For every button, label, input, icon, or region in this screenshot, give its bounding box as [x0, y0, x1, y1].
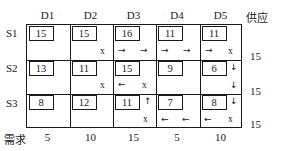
supply-value-s1: 15 — [250, 50, 276, 62]
demand-value-d1: 5 — [26, 131, 69, 143]
cell-s2-d1[interactable]: 13 — [27, 60, 70, 94]
row-header-s2: S2 — [6, 62, 28, 74]
cell-s3-d2[interactable]: 12 — [70, 94, 113, 127]
marker-s2-d2-x: x — [100, 81, 105, 91]
column-header-d3: D3 — [112, 9, 155, 21]
marker-s2-d3-arrow: ← — [118, 80, 126, 89]
cost-s2-d1: 13 — [29, 61, 54, 76]
demand-header: 需求 — [4, 131, 26, 147]
marker-s1-d4-arrow-left: → — [161, 46, 169, 55]
demand-value-d2: 10 — [69, 131, 112, 143]
cell-s3-d5[interactable]: 8 ↓ ← x — [200, 94, 241, 127]
cost-s1-d3: 16 — [115, 26, 140, 41]
cell-s3-d4[interactable]: 7 ← ← — [156, 94, 200, 127]
cost-s1-d4: 11 — [158, 26, 183, 41]
marker-s3-d5-arrow-left: ← — [204, 115, 212, 124]
cell-s2-d5[interactable]: 6 ↓ ↓ — [200, 60, 241, 94]
marker-s2-d3-x: x — [142, 81, 147, 91]
supply-value-s3: 15 — [250, 118, 276, 130]
column-header-d4: D4 — [155, 9, 199, 21]
cell-s2-d4[interactable]: 9 — [156, 60, 200, 94]
cost-s3-d3: 11 — [115, 95, 140, 110]
supply-value-s2: 15 — [250, 85, 276, 97]
marker-s1-d2-x: x — [100, 47, 105, 57]
cost-s2-d3: 15 — [115, 61, 140, 76]
row-header-s1: S1 — [6, 27, 28, 39]
marker-s1-d5-arrow: → — [205, 46, 213, 55]
cell-s3-d1[interactable]: 8 — [27, 94, 70, 127]
marker-s2-d5-arrow-bottom: ↓ — [230, 81, 238, 90]
cost-s3-d5: 8 — [202, 95, 227, 110]
transportation-table: D1 D2 D3 D4 D5 供应 S1 S2 S3 需求 15 15 x 16… — [0, 0, 291, 151]
marker-s1-d3-arrow-left: → — [118, 46, 126, 55]
demand-value-d5: 10 — [199, 131, 242, 143]
cost-s1-d5: 11 — [202, 26, 227, 41]
row-header-s3: S3 — [6, 97, 28, 109]
marker-s3-d3-arrow-up: ↑ — [144, 97, 152, 106]
cost-s3-d1: 8 — [29, 95, 54, 110]
marker-s1-d5-x: x — [228, 47, 233, 57]
demand-value-d4: 5 — [155, 131, 199, 143]
cell-s2-d2[interactable]: 11 x — [70, 60, 113, 94]
marker-s3-d4-arrow-right: ← — [182, 115, 190, 124]
marker-s3-d4-arrow-left: ← — [161, 115, 169, 124]
marker-s3-d5-arrow-down: ↓ — [230, 97, 238, 106]
cost-s2-d4: 9 — [158, 61, 183, 76]
cost-s2-d5: 6 — [202, 61, 227, 76]
cell-s1-d2[interactable]: 15 x — [70, 25, 113, 60]
demand-value-d3: 15 — [112, 131, 155, 143]
cell-s1-d5[interactable]: 11 → x — [200, 25, 241, 60]
cell-s3-d3[interactable]: 11 ↑ x — [113, 94, 156, 127]
cost-s2-d2: 11 — [72, 61, 97, 76]
grid: 15 15 x 16 → → 11 → → 11 → x 13 11 x — [26, 24, 242, 128]
cell-s1-d4[interactable]: 11 → → — [156, 25, 200, 60]
cell-s1-d1[interactable]: 15 — [27, 25, 70, 60]
cost-s3-d4: 7 — [158, 95, 183, 110]
cell-s2-d3[interactable]: 15 ← x — [113, 60, 156, 94]
column-header-d2: D2 — [69, 9, 112, 21]
marker-s1-d4-arrow-right: → — [183, 46, 191, 55]
cell-s1-d3[interactable]: 16 → → — [113, 25, 156, 60]
marker-s3-d3-x: x — [143, 115, 148, 125]
cost-s1-d1: 15 — [29, 26, 54, 41]
supply-header: 供应 — [246, 9, 288, 25]
cost-s3-d2: 12 — [72, 95, 97, 110]
marker-s2-d5-arrow-top: ↓ — [230, 63, 238, 72]
marker-s3-d5-x: x — [228, 115, 233, 125]
marker-s1-d3-arrow-right: → — [140, 46, 148, 55]
column-header-d5: D5 — [199, 9, 242, 21]
cost-s1-d2: 15 — [72, 26, 97, 41]
column-header-d1: D1 — [26, 9, 69, 21]
